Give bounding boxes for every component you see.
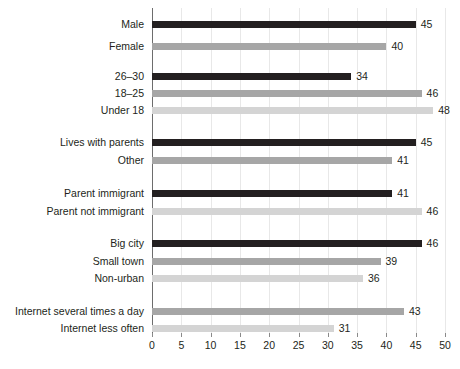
x-axis-tick bbox=[211, 333, 212, 337]
gridline bbox=[269, 8, 270, 333]
gridline bbox=[240, 8, 241, 333]
plot-area: 4540344648454141464639364331 bbox=[152, 8, 445, 333]
gridline bbox=[211, 8, 212, 333]
bar-row: 40 bbox=[152, 43, 445, 50]
category-label-axis: MaleFemale26–3018–25Under 18Lives with p… bbox=[0, 8, 148, 333]
x-axis-tick bbox=[299, 333, 300, 337]
bar bbox=[152, 190, 392, 197]
bar bbox=[152, 208, 422, 215]
gridline bbox=[181, 8, 182, 333]
gridline bbox=[386, 8, 387, 333]
category-label: Non-urban bbox=[94, 271, 144, 285]
x-axis: 05101520253035404550 bbox=[152, 333, 445, 363]
bar-row: 39 bbox=[152, 258, 445, 265]
category-label: Parent immigrant bbox=[64, 186, 144, 200]
bar-row: 31 bbox=[152, 325, 445, 332]
category-label: Big city bbox=[110, 236, 144, 250]
category-label: Female bbox=[109, 39, 144, 53]
bar bbox=[152, 73, 351, 80]
bar-row: 46 bbox=[152, 90, 445, 97]
x-axis-tick bbox=[152, 333, 153, 337]
category-label: Internet less often bbox=[61, 321, 144, 335]
y-axis-line bbox=[152, 8, 153, 333]
bar bbox=[152, 107, 433, 114]
bar-value-label: 41 bbox=[397, 186, 409, 200]
bar-value-label: 43 bbox=[409, 304, 421, 318]
category-label: Internet several times a day bbox=[15, 304, 144, 318]
x-axis-tick bbox=[240, 333, 241, 337]
x-axis-tick-label: 25 bbox=[293, 338, 305, 352]
bar bbox=[152, 43, 386, 50]
bar bbox=[152, 275, 363, 282]
bar-value-label: 48 bbox=[438, 103, 450, 117]
x-axis-tick-label: 5 bbox=[178, 338, 184, 352]
gridline bbox=[357, 8, 358, 333]
x-axis-tick-label: 20 bbox=[263, 338, 275, 352]
bar-row: 41 bbox=[152, 190, 445, 197]
x-axis-tick bbox=[386, 333, 387, 337]
bar-row: 45 bbox=[152, 21, 445, 28]
bar-row: 46 bbox=[152, 208, 445, 215]
bar-row: 43 bbox=[152, 308, 445, 315]
category-label: Under 18 bbox=[101, 103, 144, 117]
x-axis-tick-label: 35 bbox=[351, 338, 363, 352]
bar-value-label: 39 bbox=[386, 254, 398, 268]
x-axis-tick bbox=[357, 333, 358, 337]
bar-value-label: 34 bbox=[356, 69, 368, 83]
category-label: Lives with parents bbox=[60, 135, 144, 149]
bar bbox=[152, 258, 381, 265]
x-axis-tick-label: 45 bbox=[410, 338, 422, 352]
x-axis-tick-label: 10 bbox=[205, 338, 217, 352]
x-axis-tick bbox=[416, 333, 417, 337]
bar-chart: MaleFemale26–3018–25Under 18Lives with p… bbox=[0, 0, 460, 369]
bar-row: 41 bbox=[152, 157, 445, 164]
x-axis-tick-label: 50 bbox=[439, 338, 451, 352]
category-label: 26–30 bbox=[115, 69, 144, 83]
bar-value-label: 36 bbox=[368, 271, 380, 285]
bar bbox=[152, 21, 416, 28]
x-axis-tick-label: 0 bbox=[149, 338, 155, 352]
bar-row: 48 bbox=[152, 107, 445, 114]
gridline bbox=[416, 8, 417, 333]
category-label: Parent not immigrant bbox=[47, 204, 144, 218]
bar-value-label: 45 bbox=[421, 17, 433, 31]
bar bbox=[152, 90, 422, 97]
bar-row: 34 bbox=[152, 73, 445, 80]
x-axis-tick bbox=[445, 333, 446, 337]
gridline bbox=[299, 8, 300, 333]
bar-value-label: 46 bbox=[427, 236, 439, 250]
bar-value-label: 45 bbox=[421, 135, 433, 149]
gridline bbox=[445, 8, 446, 333]
bar bbox=[152, 157, 392, 164]
category-label: Small town bbox=[93, 254, 144, 268]
x-axis-tick-label: 40 bbox=[381, 338, 393, 352]
bar-row: 36 bbox=[152, 275, 445, 282]
bar-value-label: 41 bbox=[397, 153, 409, 167]
x-axis-tick-label: 15 bbox=[234, 338, 246, 352]
bar-row: 45 bbox=[152, 139, 445, 146]
x-axis-tick bbox=[269, 333, 270, 337]
category-label: Male bbox=[121, 17, 144, 31]
x-axis-tick-label: 30 bbox=[322, 338, 334, 352]
category-label: Other bbox=[118, 153, 144, 167]
bar bbox=[152, 308, 404, 315]
bar-row: 46 bbox=[152, 240, 445, 247]
gridline bbox=[328, 8, 329, 333]
bar bbox=[152, 240, 422, 247]
bar-value-label: 46 bbox=[427, 86, 439, 100]
x-axis-tick bbox=[328, 333, 329, 337]
category-label: 18–25 bbox=[115, 86, 144, 100]
bar bbox=[152, 325, 334, 332]
bar-value-label: 40 bbox=[391, 39, 403, 53]
bar bbox=[152, 139, 416, 146]
bar-value-label: 46 bbox=[427, 204, 439, 218]
x-axis-tick bbox=[181, 333, 182, 337]
